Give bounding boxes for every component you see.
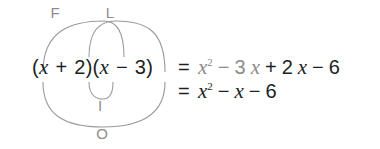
math-token: x xyxy=(251,55,260,79)
equals-sign-2: = xyxy=(178,79,198,103)
constant-3: 3 xyxy=(135,56,146,78)
math-token: − xyxy=(218,80,230,102)
binomial-expression: (x+2)(x−3) xyxy=(32,57,153,78)
equation-line-2: =x2−x−6 xyxy=(178,79,340,103)
math-token: 6 xyxy=(329,56,340,78)
math-token: 3 xyxy=(235,56,246,78)
math-token: 2 xyxy=(282,56,293,78)
constant-2: 2 xyxy=(74,56,85,78)
paren-close-1: ) xyxy=(86,56,93,78)
math-token: x2 xyxy=(198,79,213,103)
variable-x-2: x xyxy=(99,55,109,79)
exponent: 2 xyxy=(207,80,213,92)
math-token: + xyxy=(265,56,277,78)
math-token: x2 xyxy=(198,55,213,79)
paren-open-1: ( xyxy=(32,56,39,78)
variable-x-1: x xyxy=(39,55,49,79)
math-token: x xyxy=(235,79,244,103)
math-token: − xyxy=(312,56,324,78)
math-token: − xyxy=(249,80,261,102)
foil-diagram-figure: F L I O (x+2)(x−3) =x2−3x+2x−6 =x2−x−6 xyxy=(0,0,380,149)
equals-sign-1: = xyxy=(178,55,198,79)
equation-line-1-tokens: x2−3x+2x−6 xyxy=(198,56,340,78)
math-token: x xyxy=(298,55,307,79)
arc-label-last: L xyxy=(103,5,117,20)
math-token: 6 xyxy=(266,80,277,102)
math-token: − xyxy=(218,56,230,78)
arc-label-outer: O xyxy=(95,126,109,141)
exponent: 2 xyxy=(207,56,213,68)
operator-minus: − xyxy=(114,56,130,78)
equation-line-1: =x2−3x+2x−6 xyxy=(178,55,340,79)
equation-line-2-tokens: x2−x−6 xyxy=(198,80,277,102)
arc-label-inner: I xyxy=(93,98,107,113)
paren-close-2: ) xyxy=(146,56,153,78)
operator-plus: + xyxy=(53,56,69,78)
equation-block: =x2−3x+2x−6 =x2−x−6 xyxy=(178,55,340,103)
arc-label-first: F xyxy=(48,5,62,20)
